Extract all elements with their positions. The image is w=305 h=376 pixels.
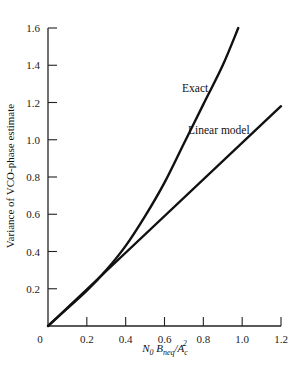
x-tick-label: 0.8 [196,333,210,345]
x-tick-label: 1.0 [235,333,249,345]
axes [48,28,281,326]
y-tick-label: 0.8 [26,171,40,183]
x-tick-label: 1.2 [274,333,288,345]
y-tick-label: 1.6 [26,22,40,34]
series [48,28,281,326]
y-axis-title: Variance of VCO-phase estimate [4,104,16,248]
series-linear-model [48,106,281,326]
y-tick-label: 0.2 [26,283,40,295]
y-tick-label: 1.0 [26,134,40,146]
chart: 0.20.40.60.81.01.21.41.600.20.40.60.81.0… [0,0,305,376]
y-tick-label: 0.6 [26,208,40,220]
x-tick-label: 0.4 [119,333,133,345]
x-tick-label: 0.2 [80,333,94,345]
series-exact [48,28,238,326]
annotation-linear-model: Linear model [188,124,250,136]
y-tick-label: 0.4 [26,246,40,258]
y-tick-label: 1.4 [26,59,40,71]
annotations: ExactLinear model [182,82,250,136]
x-tick-label: 0 [37,333,43,345]
ticks: 0.20.40.60.81.01.21.41.600.20.40.60.81.0… [26,22,288,345]
annotation-exact: Exact [182,82,209,94]
y-tick-label: 1.2 [26,97,40,109]
